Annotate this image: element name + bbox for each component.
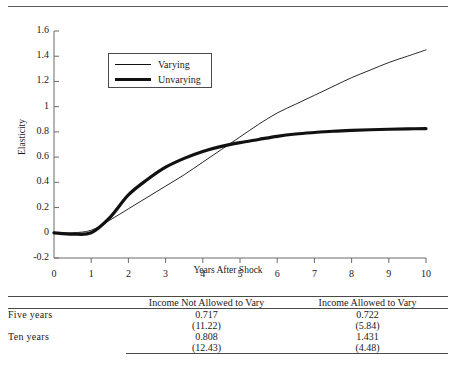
table-header-income-not-allowed: Income Not Allowed to Vary [126, 297, 287, 309]
table-body: Five years0.7170.722(11.22)(5.84)Ten yea… [8, 309, 448, 354]
table-row: Ten years0.8081.431 [8, 331, 448, 342]
y-tick-label: 1.6 [15, 24, 49, 35]
legend-entry-varying: Varying [109, 56, 213, 72]
table-header-row: Income Not Allowed to Vary Income Allowe… [8, 297, 448, 309]
table-row-label: Ten years [8, 331, 126, 354]
y-tick-label: 0.2 [15, 201, 49, 212]
table-row: Five years0.7170.722 [8, 309, 448, 321]
y-tick-label: 0.8 [15, 125, 49, 136]
y-tick-label: 1 [15, 100, 49, 111]
legend-label: Varying [151, 59, 213, 70]
table-cell-std-error: (11.22) [126, 320, 287, 331]
x-axis-title: Years After Shock [0, 265, 456, 275]
table-header-stub [8, 297, 126, 309]
y-tick-label: 0 [15, 226, 49, 237]
plot-canvas [0, 14, 456, 290]
table-cell-std-error: (4.48) [287, 342, 448, 354]
series-line-unvarying [54, 129, 426, 235]
legend-swatch-thick-line-icon [115, 78, 151, 81]
table-header-income-allowed: Income Allowed to Vary [287, 297, 448, 309]
chart-figure: Elasticity 1.61.41.210.80.60.40.20-0.2 0… [0, 14, 456, 290]
y-tick-label: -0.2 [15, 251, 49, 262]
table-cell-std-error: (5.84) [287, 320, 448, 331]
y-tick-label: 0.4 [15, 175, 49, 186]
results-table-container: Income Not Allowed to Vary Income Allowe… [8, 296, 448, 354]
table-cell-std-error: (12.43) [126, 342, 287, 354]
results-table: Income Not Allowed to Vary Income Allowe… [8, 296, 448, 354]
y-axis-title: Elasticity [17, 102, 27, 172]
table-cell-estimate: 0.808 [126, 331, 287, 342]
table-row-label: Five years [8, 309, 126, 332]
table-cell-estimate: 0.717 [126, 309, 287, 321]
table-cell-estimate: 1.431 [287, 331, 448, 342]
chart-legend: Varying Unvarying [108, 53, 212, 88]
legend-entry-unvarying: Unvarying [109, 71, 213, 87]
legend-swatch-thin-line-icon [115, 64, 151, 65]
y-tick-label: 1.4 [15, 49, 49, 60]
y-tick-label: 1.2 [15, 74, 49, 85]
y-tick-label: 0.6 [15, 150, 49, 161]
table-cell-estimate: 0.722 [287, 309, 448, 321]
legend-label: Unvarying [151, 74, 213, 85]
page-top-rule [8, 6, 448, 7]
